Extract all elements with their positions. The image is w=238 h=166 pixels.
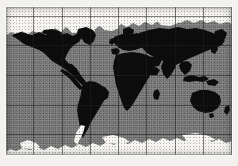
iberia <box>111 48 120 55</box>
tasmania <box>209 113 214 118</box>
madagascar <box>153 89 160 100</box>
india <box>161 58 177 79</box>
north-america <box>16 32 92 91</box>
antarctica-ice-patch-right <box>182 133 216 142</box>
southeast-asia <box>179 61 192 75</box>
new-zealand <box>224 105 230 115</box>
antarctica-ice-patch-center <box>102 135 130 144</box>
map-canvas[interactable] <box>6 7 232 155</box>
landmass-layer <box>6 7 232 155</box>
new-guinea <box>206 79 219 86</box>
indonesia <box>183 75 209 82</box>
map-frame <box>5 6 233 156</box>
antarctica-ice-patch-left <box>20 140 40 149</box>
world-map-figure <box>0 0 238 166</box>
british-isles <box>109 38 115 45</box>
australia <box>190 90 221 113</box>
